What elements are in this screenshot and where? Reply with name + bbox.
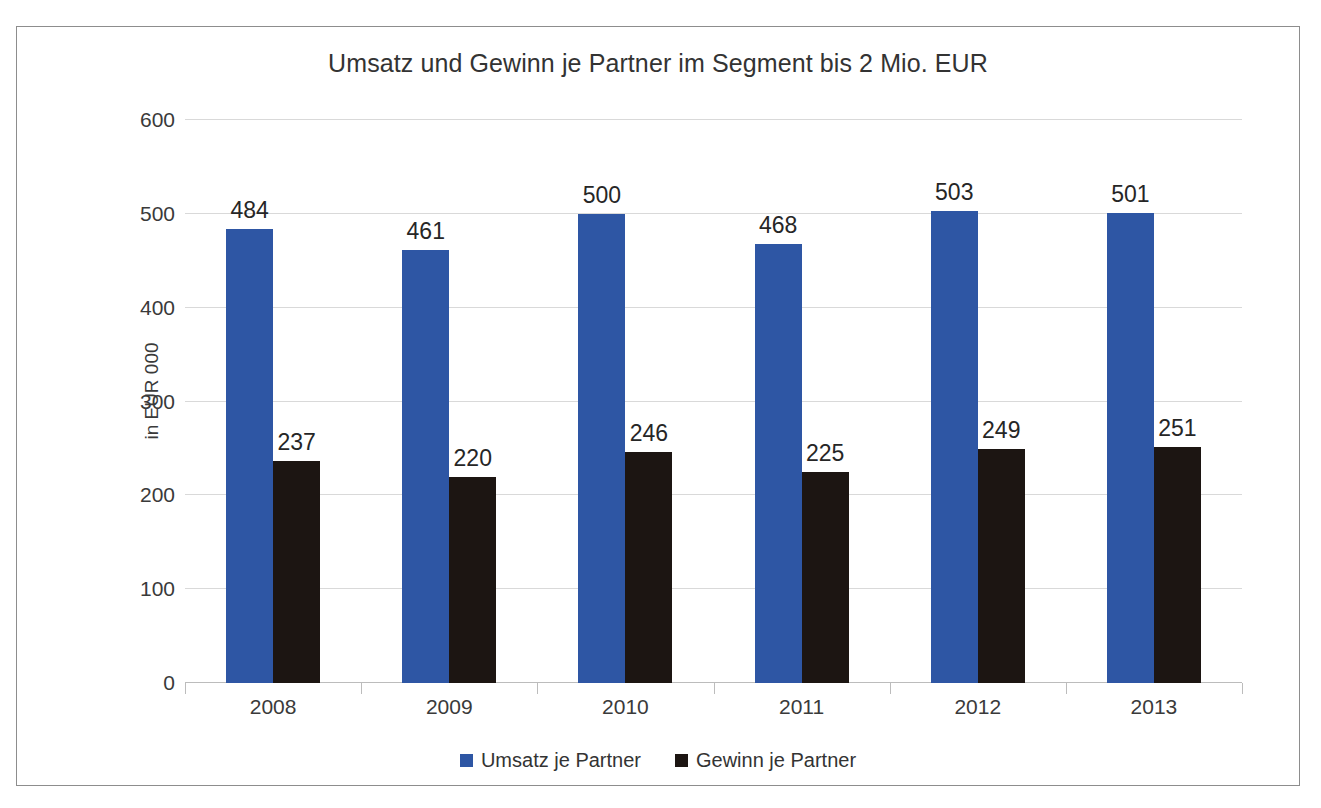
bar-value-label: 225	[806, 440, 844, 467]
y-tick-label: 500	[85, 202, 175, 226]
y-tick-label: 600	[85, 108, 175, 132]
bar-gewinn[interactable]: 251	[1154, 447, 1201, 683]
bar-group: 468225	[714, 120, 890, 683]
y-axis-tick-labels: 0100200300400500600	[75, 120, 175, 683]
bar-value-label: 237	[277, 429, 315, 456]
bar-value-label: 249	[982, 417, 1020, 444]
legend-item[interactable]: Gewinn je Partner	[675, 749, 856, 772]
bar-umsatz[interactable]: 461	[402, 250, 449, 683]
x-tick-label: 2008	[185, 695, 361, 719]
bar-group: 500246	[537, 120, 713, 683]
y-tick-label: 100	[85, 577, 175, 601]
bar-pair: 501251	[1066, 120, 1242, 683]
y-tick-label: 300	[85, 390, 175, 414]
legend-item[interactable]: Umsatz je Partner	[460, 749, 641, 772]
legend-label: Gewinn je Partner	[696, 749, 856, 772]
bar-gewinn[interactable]: 225	[802, 472, 849, 683]
bar-group: 484237	[185, 120, 361, 683]
x-tick-mark	[361, 683, 362, 694]
bar-pair: 503249	[890, 120, 1066, 683]
x-tick-label: 2009	[361, 695, 537, 719]
y-tick-label: 0	[85, 671, 175, 695]
x-tick-mark	[1066, 683, 1067, 694]
chart-title: Umsatz und Gewinn je Partner im Segment …	[17, 49, 1299, 78]
x-tick-mark	[185, 683, 186, 694]
bar-group: 461220	[361, 120, 537, 683]
bar-group: 501251	[1066, 120, 1242, 683]
bar-value-label: 501	[1111, 181, 1149, 208]
bar-value-label: 251	[1158, 415, 1196, 442]
bar-value-label: 246	[630, 420, 668, 447]
x-tick-mark	[714, 683, 715, 694]
bar-value-label: 468	[759, 212, 797, 239]
bar-pair: 461220	[361, 120, 537, 683]
x-tick-mark	[1242, 683, 1243, 694]
x-tick-label: 2013	[1066, 695, 1242, 719]
bar-pair: 500246	[537, 120, 713, 683]
chart-frame: Umsatz und Gewinn je Partner im Segment …	[16, 26, 1300, 786]
bar-umsatz[interactable]: 468	[755, 244, 802, 683]
bar-pair: 484237	[185, 120, 361, 683]
bar-gewinn[interactable]: 237	[273, 461, 320, 683]
x-axis-ticks	[185, 683, 1242, 695]
x-tick-mark	[537, 683, 538, 694]
bar-gewinn[interactable]: 246	[625, 452, 672, 683]
chart-legend: Umsatz je PartnerGewinn je Partner	[17, 749, 1299, 772]
bar-gewinn[interactable]: 249	[978, 449, 1025, 683]
bar-value-label: 503	[935, 179, 973, 206]
bar-groups: 484237461220500246468225503249501251	[185, 120, 1242, 683]
bar-value-label: 461	[407, 218, 445, 245]
x-axis-labels: 200820092010201120122013	[185, 695, 1242, 719]
bar-umsatz[interactable]: 484	[226, 229, 273, 683]
x-tick-label: 2012	[890, 695, 1066, 719]
y-tick-label: 400	[85, 296, 175, 320]
bar-umsatz[interactable]: 500	[578, 214, 625, 683]
bar-value-label: 220	[454, 445, 492, 472]
legend-swatch-icon	[675, 754, 688, 767]
bar-value-label: 484	[230, 197, 268, 224]
bar-value-label: 500	[583, 182, 621, 209]
legend-label: Umsatz je Partner	[481, 749, 641, 772]
x-tick-label: 2011	[714, 695, 890, 719]
y-tick-label: 200	[85, 483, 175, 507]
bar-pair: 468225	[714, 120, 890, 683]
bar-group: 503249	[890, 120, 1066, 683]
legend-swatch-icon	[460, 754, 473, 767]
bar-gewinn[interactable]: 220	[449, 477, 496, 683]
x-tick-mark	[890, 683, 891, 694]
x-tick-label: 2010	[537, 695, 713, 719]
bar-umsatz[interactable]: 501	[1107, 213, 1154, 683]
bar-umsatz[interactable]: 503	[931, 211, 978, 683]
